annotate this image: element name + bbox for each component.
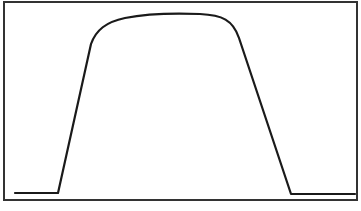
waveform-figure [0,0,361,211]
pulse-waveform-line [15,14,355,194]
pulse-diagram [0,0,361,211]
diagram-frame [4,2,357,200]
